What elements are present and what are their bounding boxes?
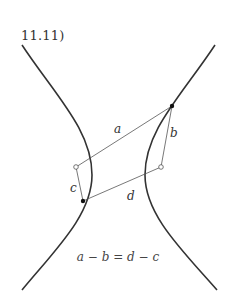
right-focus-point <box>159 165 164 170</box>
segment-d <box>83 167 161 201</box>
right-branch-point <box>170 104 174 108</box>
segment-a <box>76 106 172 167</box>
hyperbola-diagram: a b c d a − b = d − c <box>0 0 236 298</box>
segment-c <box>76 167 83 201</box>
label-a: a <box>114 122 121 136</box>
label-c: c <box>70 181 77 195</box>
left-focus-point <box>74 165 79 170</box>
left-branch-point <box>81 199 85 203</box>
label-b: b <box>170 126 178 140</box>
label-d: d <box>127 189 135 203</box>
equation: a − b = d − c <box>77 250 160 264</box>
